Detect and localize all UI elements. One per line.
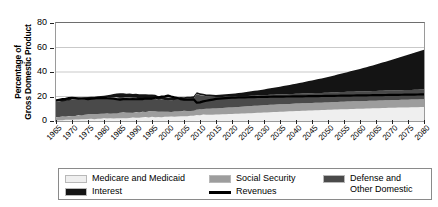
budget-outlook-chart-figure: Percentage of Gross Domestic Product 020…	[0, 0, 438, 207]
y-tick-mark	[50, 72, 54, 73]
legend-swatch-icon	[209, 191, 231, 194]
plot-svg	[56, 23, 424, 121]
legend-swatch-icon	[65, 188, 87, 196]
y-tick-mark	[50, 121, 54, 122]
y-axis-title-line1: Percentage of	[13, 7, 23, 137]
y-tick-label-80: 80	[23, 18, 47, 27]
y-tick-label-0: 0	[23, 116, 47, 125]
chart-legend: Medicare and MedicaidSocial SecurityDefe…	[58, 168, 432, 200]
legend-label: Social Security	[236, 173, 296, 184]
legend-items: Medicare and MedicaidSocial SecurityDefe…	[59, 169, 431, 199]
y-tick-mark	[50, 97, 54, 98]
legend-item-revenues[interactable]: Revenues	[209, 186, 277, 197]
legend-label: Defense and Other Domestic	[350, 173, 413, 195]
legend-label: Medicare and Medicaid	[92, 173, 185, 184]
legend-item-medicare-and-medicaid[interactable]: Medicare and Medicaid	[65, 173, 185, 184]
y-tick-label-20: 20	[23, 92, 47, 101]
x-axis: 1965197019751980198519901995200020052010…	[55, 124, 427, 160]
legend-item-social-security[interactable]: Social Security	[209, 173, 296, 184]
legend-item-interest[interactable]: Interest	[65, 186, 122, 197]
y-tick-label-60: 60	[23, 43, 47, 52]
legend-item-defense-and-other-domestic[interactable]: Defense and Other Domestic	[323, 173, 413, 195]
legend-swatch-icon	[65, 175, 87, 183]
plot-area	[55, 22, 425, 122]
legend-swatch-icon	[209, 175, 231, 183]
y-tick-label-40: 40	[23, 67, 47, 76]
legend-swatch-icon	[323, 175, 345, 183]
legend-label: Interest	[92, 186, 122, 197]
y-tick-mark	[50, 23, 54, 24]
y-tick-mark	[50, 48, 54, 49]
legend-label: Revenues	[236, 186, 277, 197]
